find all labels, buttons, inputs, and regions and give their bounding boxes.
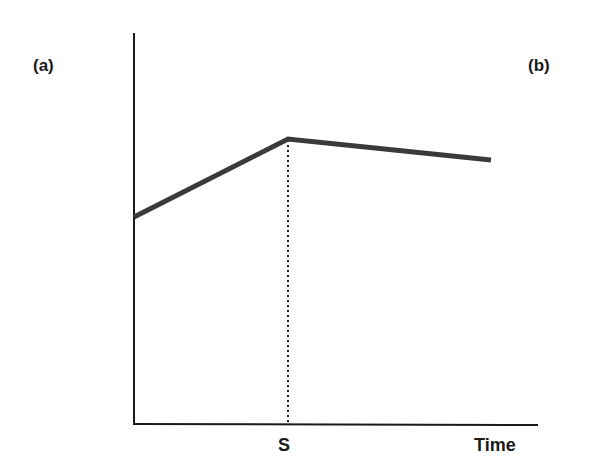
x-tick-s: S xyxy=(278,435,290,456)
trend-line xyxy=(134,139,491,217)
x-axis xyxy=(133,424,538,425)
chart xyxy=(0,0,595,471)
x-axis-label: Time xyxy=(474,435,516,456)
